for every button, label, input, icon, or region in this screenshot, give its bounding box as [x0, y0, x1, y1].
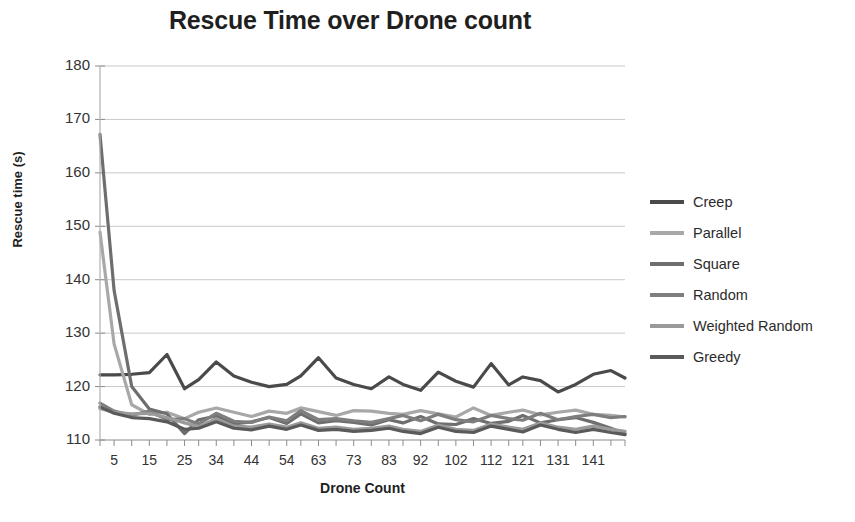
x-tick-label: 131	[538, 452, 578, 468]
series-lines	[100, 134, 625, 434]
legend-item[interactable]: Weighted Random	[650, 310, 855, 341]
legend-item[interactable]: Random	[650, 279, 855, 310]
legend-item-label: Creep	[693, 194, 733, 210]
y-tick-label: 140	[38, 270, 90, 287]
y-tick-label: 180	[38, 56, 90, 73]
x-tick-label: 73	[334, 452, 374, 468]
legend-item[interactable]: Square	[650, 248, 855, 279]
legend-item-label: Weighted Random	[693, 318, 813, 334]
x-tick-label: 34	[196, 452, 236, 468]
y-tick-label: 170	[38, 109, 90, 126]
gridlines	[100, 66, 625, 387]
chart-legend: CreepParallelSquareRandomWeighted Random…	[650, 186, 855, 372]
legend-item-label: Square	[693, 256, 740, 272]
x-axis-title: Drone Count	[100, 480, 625, 496]
legend-swatch-icon	[650, 262, 684, 266]
x-tick-label: 63	[298, 452, 338, 468]
x-tick-label: 5	[94, 452, 134, 468]
y-tick-label: 150	[38, 216, 90, 233]
legend-swatch-icon	[650, 200, 684, 204]
legend-item[interactable]: Parallel	[650, 217, 855, 248]
x-tick-label: 44	[232, 452, 272, 468]
x-tick-label: 92	[401, 452, 441, 468]
y-tick-label: 130	[38, 323, 90, 340]
legend-item[interactable]: Creep	[650, 186, 855, 217]
y-axis-title: Rescue time (s)	[10, 135, 25, 265]
y-tick-label: 110	[38, 430, 90, 447]
x-tick-label: 141	[573, 452, 613, 468]
legend-swatch-icon	[650, 324, 684, 328]
legend-item-label: Random	[693, 287, 748, 303]
legend-item[interactable]: Greedy	[650, 341, 855, 372]
legend-swatch-icon	[650, 231, 684, 235]
x-tick-label: 15	[129, 452, 169, 468]
series-line-parallel	[100, 232, 625, 418]
legend-item-label: Greedy	[693, 349, 741, 365]
y-tick-label: 160	[38, 163, 90, 180]
x-tick-label: 102	[436, 452, 476, 468]
legend-item-label: Parallel	[693, 225, 741, 241]
chart-container: Rescue Time over Drone count Rescue time…	[0, 0, 855, 522]
x-tick-label: 121	[503, 452, 543, 468]
legend-swatch-icon	[650, 293, 684, 297]
series-line-square	[100, 134, 625, 433]
y-tick-label: 120	[38, 377, 90, 394]
axis-ticks	[95, 66, 625, 446]
legend-swatch-icon	[650, 355, 684, 359]
